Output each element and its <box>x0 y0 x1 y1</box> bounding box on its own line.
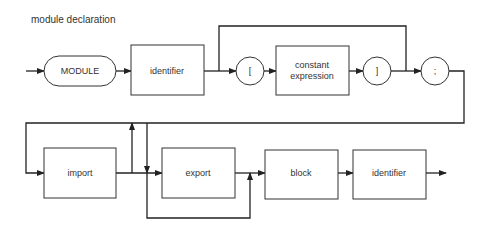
nonterminal-identifier-1: identifier <box>131 45 204 95</box>
svg-text:identifier: identifier <box>150 66 184 76</box>
terminal-module: MODULE <box>44 56 116 86</box>
nonterminal-constant-expression: constant expression <box>276 46 349 95</box>
nonterminal-import: import <box>44 148 116 198</box>
syntax-diagram: MODULE identifier [ constant expression … <box>0 0 487 236</box>
svg-text:MODULE: MODULE <box>61 66 100 76</box>
svg-text:expression: expression <box>290 71 334 81</box>
svg-text:identifier: identifier <box>372 168 406 178</box>
nonterminal-export: export <box>162 148 235 198</box>
svg-text:block: block <box>290 168 312 178</box>
nonterminal-block: block <box>265 150 338 199</box>
svg-text:export: export <box>185 168 211 178</box>
terminal-semicolon: ; <box>421 57 449 85</box>
svg-text:import: import <box>67 168 93 178</box>
svg-text:;: ; <box>434 66 437 76</box>
nonterminal-identifier-2: identifier <box>353 150 426 199</box>
svg-text:constant: constant <box>295 60 330 70</box>
terminal-left-bracket: [ <box>236 57 264 85</box>
svg-text:]: ] <box>376 66 379 76</box>
terminal-right-bracket: ] <box>363 57 391 85</box>
